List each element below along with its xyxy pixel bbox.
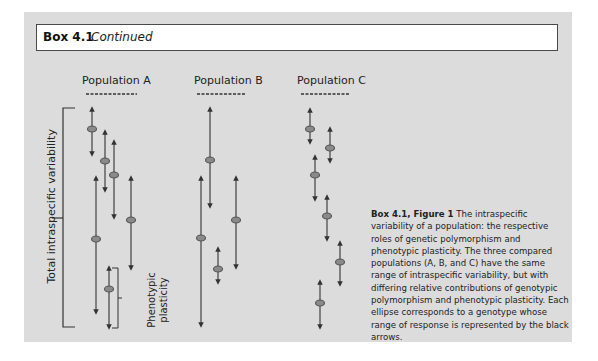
y-axis-label: Total intraspecific variability (45, 154, 58, 284)
phenotypic-plasticity-bracket (112, 268, 122, 328)
caption-text: The intraspecific variability of a popul… (371, 209, 569, 342)
phenotypic-plasticity-line2: plasticity (158, 260, 170, 340)
phenotypic-plasticity-line1: Phenotypic (146, 260, 158, 340)
phenotypic-plasticity-label: Phenotypic plasticity (146, 260, 170, 340)
caption-title: Box 4.1, Figure 1 (371, 209, 454, 219)
population-c-genotypes (306, 110, 345, 327)
population-a-genotypes (88, 109, 136, 327)
figure-caption: Box 4.1, Figure 1 The intraspecific vari… (371, 208, 571, 343)
population-b-genotypes (197, 109, 241, 325)
